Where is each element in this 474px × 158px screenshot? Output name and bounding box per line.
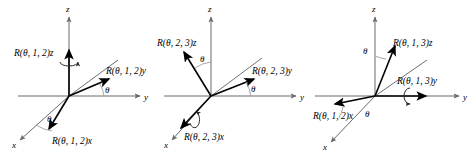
rotated-z-vector-label: R(θ, 1, 2)z xyxy=(13,48,54,59)
rotated-y-vector-label: R(θ, 1, 3)y xyxy=(396,76,438,87)
givens-rotation-figure: z y x R(θ, 1, 2)z R(θ, 1, 2)y R(θ, 1, 2)… xyxy=(0,0,474,158)
rotated-z-vector xyxy=(184,52,211,96)
panel-3-canvas: z y x R(θ, 1, 3)z R(θ, 1, 3)y R(θ, 1, 2)… xyxy=(313,0,474,158)
diagram-panel-3: z y x R(θ, 1, 3)z R(θ, 1, 3)y R(θ, 1, 2)… xyxy=(313,0,471,158)
rotated-x-vector xyxy=(49,96,69,129)
z-axis-label: z xyxy=(207,4,212,14)
y-axis-label: y xyxy=(143,92,148,102)
theta-label-upper: θ xyxy=(105,85,110,95)
x-axis-label: x xyxy=(322,142,327,152)
theta-arc-upper xyxy=(375,56,386,59)
theta-label-lower: θ xyxy=(365,109,370,119)
y-axis-label: y xyxy=(462,92,467,102)
theta-arc-upper xyxy=(100,84,104,96)
z-axis-label: z xyxy=(65,4,70,14)
theta-label-upper: θ xyxy=(200,54,205,64)
rotated-x-vector-label: R(θ, 1, 2)x xyxy=(313,111,354,122)
panel-2-canvas: z y x R(θ, 2, 3)z R(θ, 2, 3)y R(θ, 2, 3)… xyxy=(156,0,314,158)
diagram-panel-2: z y x R(θ, 2, 3)z R(θ, 2, 3)y R(θ, 2, 3)… xyxy=(156,0,314,158)
panel-1-canvas: z y x R(θ, 1, 2)z R(θ, 1, 2)y R(θ, 1, 2)… xyxy=(0,0,158,158)
x-axis-label: x xyxy=(11,140,16,150)
z-axis-label: z xyxy=(371,4,376,14)
y-axis-label: y xyxy=(299,92,304,102)
diagram-panel-1: z y x R(θ, 1, 2)z R(θ, 1, 2)y R(θ, 1, 2)… xyxy=(0,0,158,158)
rotated-y-vector-label: R(θ, 2, 3)y xyxy=(251,66,293,77)
rotated-y-vector xyxy=(211,79,254,96)
theta-label-lower: θ xyxy=(47,114,52,124)
rotated-z-vector-label: R(θ, 1, 3)z xyxy=(392,38,433,49)
x-axis-label: x xyxy=(163,140,168,150)
rotated-z-vector-label: R(θ, 2, 3)z xyxy=(156,38,197,49)
x-axis-line xyxy=(20,96,69,140)
theta-label-lower: θ xyxy=(251,84,256,94)
rotated-x-vector-label: R(θ, 2, 3)x xyxy=(183,132,225,143)
theta-label-upper: θ xyxy=(363,46,368,56)
rotated-y-vector-label: R(θ, 1, 2)y xyxy=(105,66,147,77)
rotated-x-vector-label: R(θ, 1, 2)x xyxy=(51,136,93,147)
